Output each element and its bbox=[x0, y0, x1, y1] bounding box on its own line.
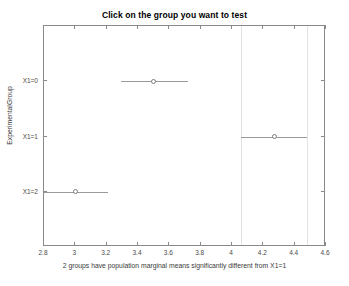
y-axis-label: ExperimentalGroup bbox=[6, 66, 13, 166]
group-row-X12[interactable] bbox=[44, 192, 326, 193]
x-tick-label-9: 4.6 bbox=[320, 249, 329, 256]
x-tick-label-6: 4 bbox=[229, 249, 233, 256]
x-tick-label-0: 2.8 bbox=[38, 249, 47, 256]
figure-canvas: Click on the group you want to test 2.83… bbox=[0, 0, 349, 286]
plot-area[interactable] bbox=[43, 25, 325, 246]
x-tick-label-8: 4.4 bbox=[289, 249, 298, 256]
chart-title: Click on the group you want to test bbox=[0, 10, 349, 20]
group-row-X10[interactable] bbox=[44, 81, 326, 82]
mean-marker-X12[interactable] bbox=[73, 189, 78, 194]
y-tick-label-X11[interactable]: X1=1 bbox=[23, 132, 38, 139]
x-tick-label-3: 3.4 bbox=[132, 249, 141, 256]
mean-marker-X11[interactable] bbox=[272, 134, 277, 139]
x-axis-label: 2 groups have population marginal means … bbox=[0, 262, 349, 269]
x-tick-label-5: 3.8 bbox=[195, 249, 204, 256]
x-tick-label-4: 3.6 bbox=[164, 249, 173, 256]
group-row-X11[interactable] bbox=[44, 137, 326, 138]
x-tick-label-1: 3 bbox=[73, 249, 77, 256]
reference-line-1 bbox=[307, 26, 308, 245]
mean-marker-X10[interactable] bbox=[151, 79, 156, 84]
x-tick-label-7: 4.2 bbox=[258, 249, 267, 256]
x-tick-label-2: 3.2 bbox=[101, 249, 110, 256]
y-tick-label-X12[interactable]: X1=2 bbox=[23, 187, 38, 194]
x-tick-9 bbox=[325, 242, 326, 246]
x-tick-top-9 bbox=[325, 25, 326, 29]
y-tick-label-X10[interactable]: X1=0 bbox=[23, 77, 38, 84]
reference-line-0 bbox=[241, 26, 242, 245]
